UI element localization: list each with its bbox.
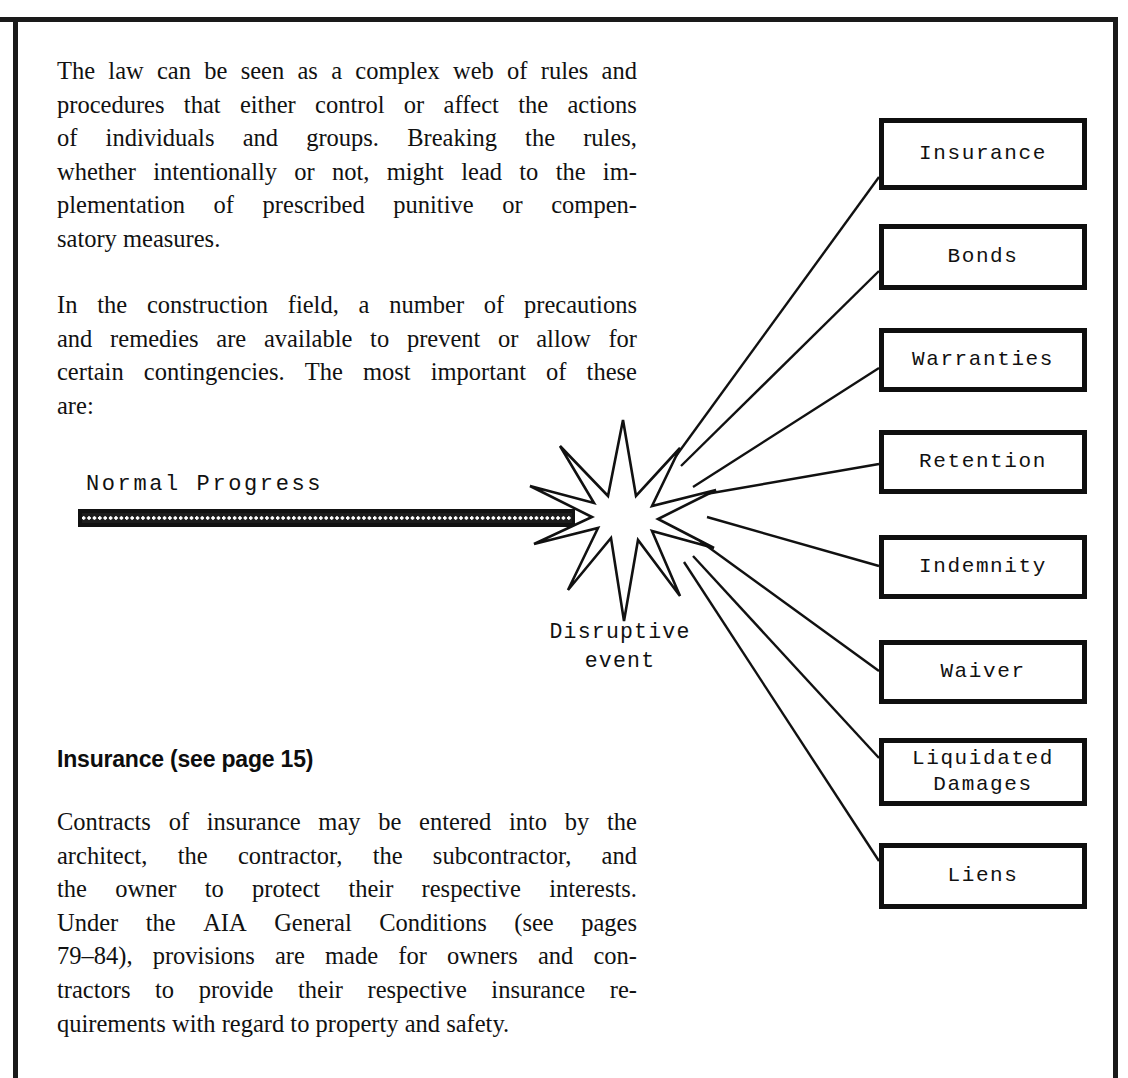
outcome-box-label: Bonds [947, 244, 1018, 270]
outcome-box-liens[interactable]: Liens [879, 843, 1087, 909]
paragraph-one-line: Thelawcanbeseenasacomplexwebofrulesand [57, 54, 637, 88]
outcome-box-indemnity[interactable]: Indemnity [879, 535, 1087, 599]
outcome-box-label: Insurance [919, 141, 1047, 167]
disruptive-event-starburst-icon [528, 418, 718, 623]
paragraph-three-line: UndertheAIAGeneralConditions(seepages [57, 906, 637, 940]
paragraph-three-line: tractorstoprovidetheirrespectiveinsuranc… [57, 973, 637, 1007]
connector-line-insurance [676, 177, 879, 456]
progress-bar-hatch-fill [81, 513, 572, 523]
outcome-box-bonds[interactable]: Bonds [879, 224, 1087, 290]
outcome-box-label: Liens [947, 863, 1018, 889]
paragraph-one: Thelawcanbeseenasacomplexwebofrulesand p… [57, 54, 637, 256]
outcome-box-retention[interactable]: Retention [879, 430, 1087, 494]
paragraph-three: Contractsofinsurancemaybeenteredintobyth… [57, 805, 637, 1040]
paragraph-one-line: plementationofprescribedpunitiveorcompen… [57, 188, 637, 222]
disruptive-event-caption-line2: event [585, 649, 656, 673]
paragraph-three-line: 79–84),provisionsaremadeforownersandcon- [57, 939, 637, 973]
paragraph-two-line: andremediesareavailabletopreventorallowf… [57, 322, 637, 356]
page-border-top-extension [0, 17, 16, 22]
outcome-box-label-second-line: Damages [912, 772, 1054, 798]
paragraph-two-line: Intheconstructionfield,anumberofprecauti… [57, 288, 637, 322]
paragraph-three-line: quirements with regard to property and s… [57, 1007, 637, 1041]
page-canvas: Thelawcanbeseenasacomplexwebofrulesand p… [0, 0, 1128, 1078]
outcome-box-label: Indemnity [919, 554, 1047, 580]
paragraph-one-line: proceduresthateithercontroloraffecttheac… [57, 88, 637, 122]
paragraph-two-line: certaincontingencies.Themostimportantoft… [57, 355, 637, 389]
paragraph-one-line: whetherintentionallyornot,mightleadtothe… [57, 155, 637, 189]
disruptive-event-caption-line1: Disruptive [549, 620, 690, 644]
outcome-box-label: Retention [919, 449, 1047, 475]
outcome-box-label: Warranties [912, 347, 1054, 373]
paragraph-one-line: satory measures. [57, 222, 637, 256]
progress-bar-left-cap [78, 509, 82, 527]
outcome-box-liquidated-damages[interactable]: Liquidated Damages [879, 738, 1087, 806]
outcome-box-label: Liquidated [912, 746, 1054, 772]
connector-line-indemnity [707, 517, 879, 566]
outcome-box-warranties[interactable]: Warranties [879, 328, 1087, 392]
disruptive-event-caption: Disruptive event [512, 618, 728, 676]
paragraph-three-line: Contractsofinsurancemaybeenteredintobyth… [57, 805, 637, 839]
page-section-heading: Insurance (see page 15) [57, 746, 637, 773]
outcome-box-waiver[interactable]: Waiver [879, 640, 1087, 704]
paragraph-three-line: architect,thecontractor,thesubcontractor… [57, 839, 637, 873]
normal-progress-label: Normal Progress [86, 472, 323, 497]
paragraph-two: Intheconstructionfield,anumberofprecauti… [57, 288, 637, 422]
outcome-box-insurance[interactable]: Insurance [879, 118, 1087, 190]
paragraph-three-line: theownertoprotecttheirrespectiveinterest… [57, 872, 637, 906]
outcome-box-label: Waiver [940, 659, 1025, 685]
connector-line-retention [706, 464, 879, 494]
paragraph-one-line: ofindividualsandgroups.Breakingtherules, [57, 121, 637, 155]
connector-line-warranties [693, 368, 879, 487]
normal-progress-bar [78, 509, 575, 527]
